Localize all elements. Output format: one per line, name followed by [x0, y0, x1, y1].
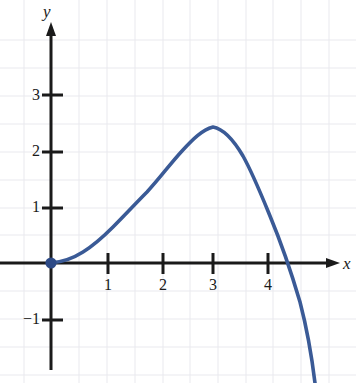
y-tick-label-1: 1: [26, 198, 40, 216]
x-tick-label-4: 4: [260, 276, 276, 294]
x-tick-label-1: 1: [100, 276, 116, 294]
x-tick-label-2: 2: [155, 276, 171, 294]
x-tick-label-3: 3: [205, 276, 221, 294]
y-tick-label-2: 2: [26, 142, 40, 160]
y-tick-label-3: 3: [26, 86, 40, 104]
y-axis-label: y: [43, 2, 51, 22]
y-tick-label-minus-1: −1: [14, 310, 40, 328]
origin-point-marker: [45, 257, 56, 268]
grid-lines: [0, 0, 356, 383]
y-axis: [46, 22, 56, 370]
function-curve: [51, 127, 315, 383]
graph-figure: y x 3 2 1 −1 1 2 3 4: [0, 0, 356, 383]
x-axis-label: x: [343, 254, 351, 274]
coordinate-plot: [0, 0, 356, 383]
